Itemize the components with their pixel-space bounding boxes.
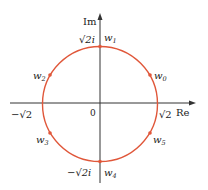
point-w2 (48, 73, 52, 77)
real-axis-arrow-icon (189, 101, 196, 106)
tick-pos-real: √2 (159, 109, 172, 120)
imaginary-axis-arrow-icon (98, 13, 103, 20)
label-w1: w1 (104, 32, 117, 45)
tick-pos-imag: √2i (79, 34, 95, 45)
label-w4: w4 (104, 167, 117, 180)
label-w5: w5 (153, 134, 166, 147)
point-w3 (48, 131, 52, 135)
complex-plane-diagram: Im Re 0 √2 −√2 √2i −√2i w0 w1 w2 w3 w4 w… (0, 0, 208, 190)
real-axis-label: Re (176, 107, 190, 118)
origin-label: 0 (90, 108, 96, 118)
point-w4 (98, 160, 102, 164)
label-w0: w0 (154, 70, 167, 83)
label-w3: w3 (36, 134, 49, 147)
imaginary-axis-label: Im (83, 16, 97, 27)
point-w5 (148, 131, 152, 135)
tick-neg-real: −√2 (11, 109, 32, 120)
tick-neg-imag: −√2i (67, 167, 91, 178)
label-w2: w2 (33, 70, 46, 83)
point-w0 (148, 73, 152, 77)
point-w1 (98, 45, 102, 49)
